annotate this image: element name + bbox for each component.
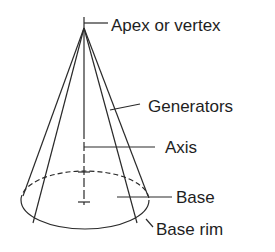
base-rim-label: Base rim [156,220,223,239]
base-rim-front [21,200,149,229]
base-label: Base [176,188,215,207]
base-rim-leader [146,219,153,227]
apex-label: Apex or vertex [111,16,221,35]
generators-label: Generators [148,97,233,116]
generators [23,28,148,223]
cone-diagram: Apex or vertex Generators Axis Base Base… [0,0,275,252]
axis-label: Axis [165,138,197,157]
